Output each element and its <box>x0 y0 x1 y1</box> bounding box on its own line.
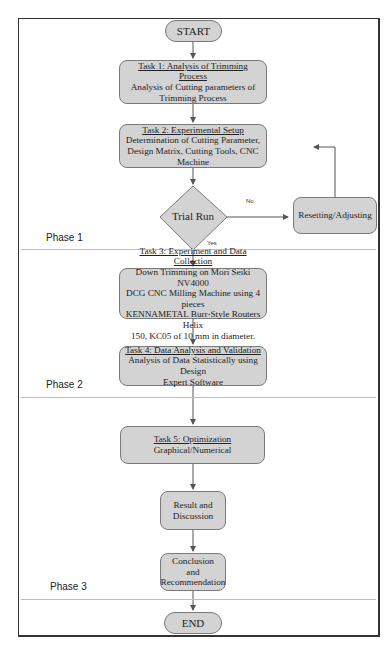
phase-separator-3 <box>21 599 376 600</box>
task1-node: Task 1: Analysis of Trimming Process Ana… <box>119 60 267 104</box>
decision-no-label: No <box>246 198 254 204</box>
task2-body-line: Machine <box>177 157 209 168</box>
task3-body-line: 150, KC05 of 10 mm in diameter. <box>131 331 255 342</box>
start-node: START <box>165 20 222 42</box>
result-line: Result and <box>173 500 212 511</box>
resetting-adjusting-node: Resetting/Adjusting <box>293 197 377 234</box>
edge-reset-task2 <box>314 147 335 197</box>
task3-body-line: DCG CNC Milling Machine using 4 pieces <box>124 288 262 309</box>
conclusion-line: Conclusion and <box>165 556 221 577</box>
phase-3-label: Phase 3 <box>50 581 87 592</box>
result-discussion-node: Result and Discussion <box>160 491 226 530</box>
phase-2-label: Phase 2 <box>46 379 83 390</box>
task2-node: Task 2: Experimental Setup Determination… <box>119 124 267 168</box>
task5-title: Task 5: Optimization <box>154 434 231 445</box>
decision-label: Trial Run <box>163 210 223 222</box>
result-line: Discussion <box>173 511 213 522</box>
conclusion-line: Recommendation <box>161 577 226 588</box>
phase-1-label: Phase 1 <box>46 232 83 243</box>
task4-body-line: Expert Software <box>163 377 223 388</box>
phase-separator-2 <box>21 397 376 398</box>
start-label: START <box>177 26 210 37</box>
task3-body-line: KENNAMETAL Burr-Style Routers Helix <box>124 309 262 330</box>
resetting-adjusting-label: Resetting/Adjusting <box>298 210 372 221</box>
task2-title: Task 2: Experimental Setup <box>142 125 244 136</box>
task4-title: Task 4: Data Analysis and Validation <box>125 345 261 356</box>
task2-body-line: Determination of Cutting Parameter, <box>126 135 260 146</box>
task3-body-line: Down Trimming on Mori Seiki NV4000 <box>124 267 262 288</box>
conclusion-recommendation-node: Conclusion and Recommendation <box>160 553 226 591</box>
task5-body-line: Graphical/Numerical <box>154 445 232 456</box>
task1-body-line: Analysis of Cutting parameters of <box>131 82 256 93</box>
task1-body-line: Trimming Process <box>159 93 226 104</box>
task3-node: Task 3: Experiment and Data Collection D… <box>119 268 267 319</box>
task4-body-line: Analysis of Data Statistically using Des… <box>124 355 262 376</box>
task4-node: Task 4: Data Analysis and Validation Ana… <box>119 346 267 386</box>
end-node: END <box>164 612 222 634</box>
end-label: END <box>182 618 205 629</box>
task1-title: Task 1: Analysis of Trimming Process <box>124 61 262 82</box>
task5-node: Task 5: Optimization Graphical/Numerical <box>120 426 265 464</box>
task3-title: Task 3: Experiment and Data Collection <box>124 246 262 267</box>
task2-body-line: Design Matrix, Cutting Tools, CNC <box>127 146 258 157</box>
